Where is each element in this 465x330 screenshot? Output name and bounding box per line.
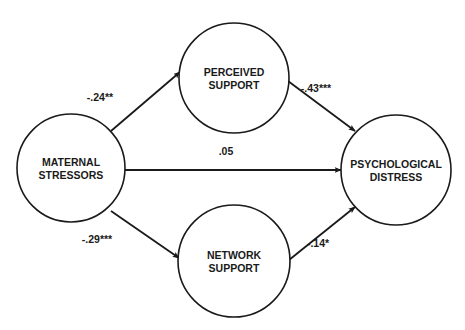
node-label-distress-line-1: PSYCHOLOGICAL [350,158,442,170]
path-diagram: MATERNALSTRESSORSPERCEIVEDSUPPORTNETWORK… [0,0,465,330]
coefficient-perceived-to-distress: -.43*** [301,82,332,94]
node-label-network-line-1: NETWORK [207,249,262,261]
node-network: NETWORKSUPPORT [178,205,290,317]
arrow-maternal-to-perceived [111,72,180,131]
node-perceived: PERCEIVEDSUPPORT [179,23,289,133]
coefficient-network-to-distress: -.14* [307,237,330,249]
coefficient-maternal-to-perceived: -.24** [87,91,114,103]
node-label-maternal-line-2: STRESSORS [39,169,104,181]
node-label-network-line-2: SUPPORT [209,262,260,274]
node-label-perceived-line-2: SUPPORT [209,79,260,91]
node-label-maternal-line-1: MATERNAL [42,156,101,168]
node-label-distress-line-2: DISTRESS [370,171,423,183]
arrow-maternal-to-network [111,211,179,258]
node-distress: PSYCHOLOGICALDISTRESS [341,115,451,225]
node-label-perceived-line-1: PERCEIVED [204,66,265,78]
coefficient-maternal-to-distress: .05 [219,145,234,157]
coefficient-maternal-to-network: -.29*** [82,233,113,245]
node-maternal: MATERNALSTRESSORS [17,114,125,222]
arrow-network-to-distress [289,207,355,260]
